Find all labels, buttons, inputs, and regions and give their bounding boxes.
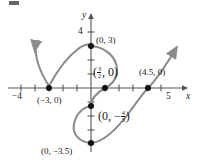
x-tick-label-5: 5 — [166, 92, 171, 102]
coordinate-plane-svg — [0, 0, 200, 163]
point-0-3 — [88, 43, 94, 49]
point-label-4p5-0: (4.5, 0) — [139, 68, 165, 77]
fraction-3-2: 32 — [97, 66, 101, 80]
paren-open-zero: (0, − — [98, 109, 121, 123]
point-minus3-0 — [46, 85, 52, 91]
point-label-3over2-0: (32, 0) — [93, 66, 118, 80]
point-4p5-0 — [145, 85, 151, 91]
paren-close: ) — [126, 109, 130, 123]
x-axis — [8, 85, 183, 92]
point-0-minus4over3 — [88, 103, 94, 109]
paren-close-zero: , 0) — [102, 65, 118, 79]
paren-open: ( — [93, 65, 97, 79]
point-label-minus3-0: (−3, 0) — [37, 96, 62, 105]
graph-figure: y x 4 −4 5 (0, 3) (−3, 0) (4.5, 0) (0, −… — [0, 0, 200, 163]
y-axis-label: y — [82, 11, 86, 21]
point-label-0-minus4over3: (0, −43) — [98, 110, 130, 124]
point-0-minus3p5 — [88, 140, 94, 146]
point-3over2-0 — [102, 85, 108, 91]
fraction-4-3: 43 — [121, 110, 125, 124]
x-tick-label-minus4: −4 — [12, 92, 22, 102]
y-axis — [88, 18, 95, 152]
plotted-curve — [36, 42, 172, 143]
marked-points — [46, 43, 151, 146]
point-label-0-3: (0, 3) — [96, 36, 116, 45]
y-tick-label-4: 4 — [78, 27, 83, 37]
x-axis-label: x — [186, 92, 190, 102]
point-label-0-minus3p5: (0, −3.5) — [41, 147, 72, 156]
